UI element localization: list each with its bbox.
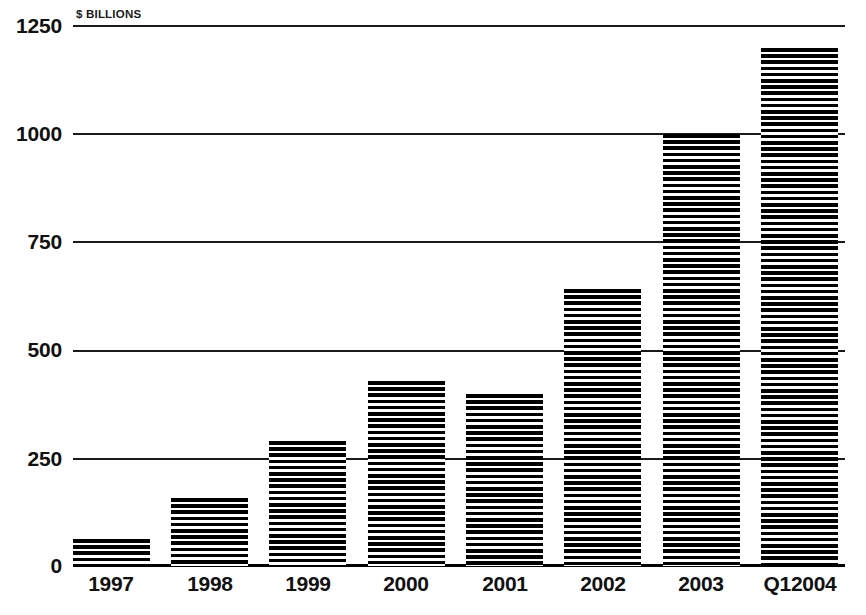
x-tick-label-2003: 2003 (646, 572, 756, 596)
y-tick-label-1250: 1250 (0, 14, 62, 38)
y-tick-label-1000: 1000 (0, 122, 62, 146)
chart-page: $ BILLIONS 1250 1000 750 500 250 0 1997 … (0, 0, 866, 615)
bar-1999[interactable] (269, 441, 346, 566)
y-tick-label-0: 0 (0, 554, 62, 578)
bar-q12004[interactable] (761, 48, 838, 566)
x-tick-label-2000: 2000 (351, 572, 461, 596)
x-tick-label-2001: 2001 (450, 572, 560, 596)
bar-2003[interactable] (663, 134, 740, 566)
bar-1998[interactable] (171, 498, 248, 566)
y-tick-label-250: 250 (0, 447, 62, 471)
x-tick-label-2002: 2002 (548, 572, 658, 596)
y-tick-label-500: 500 (0, 338, 62, 362)
bar-2001[interactable] (466, 394, 543, 566)
bar-1997[interactable] (73, 539, 150, 566)
x-tick-label-1999: 1999 (253, 572, 363, 596)
bar-2002[interactable] (564, 289, 641, 566)
x-tick-label-q12004: Q12004 (745, 572, 855, 596)
gridline-1250 (73, 25, 845, 27)
axis-units-label: $ BILLIONS (76, 8, 141, 20)
bar-2000[interactable] (368, 381, 445, 566)
plot-area (73, 25, 845, 566)
y-tick-label-750: 750 (0, 230, 62, 254)
x-tick-label-1997: 1997 (56, 572, 166, 596)
x-tick-label-1998: 1998 (155, 572, 265, 596)
